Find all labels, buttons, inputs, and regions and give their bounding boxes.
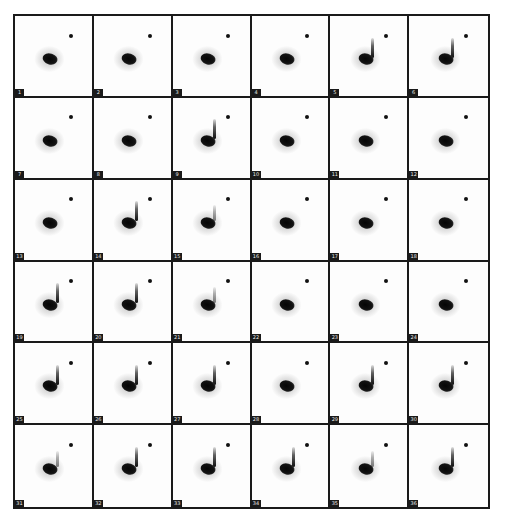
reference-dot — [305, 197, 309, 201]
image-panel: 4 — [252, 16, 331, 98]
image-panel: 15 — [173, 180, 252, 262]
reference-dot — [148, 361, 152, 365]
image-panel: 20 — [94, 262, 173, 344]
panel-number-label: 7 — [15, 171, 24, 178]
panel-number-label: 11 — [330, 171, 339, 178]
image-panel: 22 — [252, 262, 331, 344]
reference-dot — [226, 361, 230, 365]
reference-dot — [148, 443, 152, 447]
panel-number-label: 34 — [252, 500, 261, 507]
panel-number-label: 30 — [409, 416, 418, 423]
panel-number-label: 4 — [252, 89, 261, 96]
image-panel: 6 — [409, 16, 488, 98]
image-panel: 9 — [173, 98, 252, 180]
panel-number-label: 16 — [252, 253, 261, 260]
image-panel: 2 — [94, 16, 173, 98]
image-panel: 33 — [173, 425, 252, 507]
reference-dot — [464, 443, 468, 447]
image-panel: 16 — [252, 180, 331, 262]
image-panel: 3 — [173, 16, 252, 98]
blob-streak — [56, 451, 59, 467]
blob-streak — [451, 447, 454, 467]
reference-dot — [226, 279, 230, 283]
image-panel: 36 — [409, 425, 488, 507]
reference-dot — [464, 197, 468, 201]
panel-number-label: 31 — [15, 500, 24, 507]
panel-number-label: 5 — [330, 89, 339, 96]
reference-dot — [384, 443, 388, 447]
image-panel: 5 — [330, 16, 409, 98]
blob-streak — [292, 447, 295, 467]
reference-dot — [305, 279, 309, 283]
panel-number-label: 28 — [252, 416, 261, 423]
reference-dot — [69, 361, 73, 365]
blob-streak — [135, 201, 138, 221]
image-panel: 28 — [252, 343, 331, 425]
panel-number-label: 29 — [330, 416, 339, 423]
reference-dot — [69, 115, 73, 119]
image-panel: 26 — [94, 343, 173, 425]
panel-number-label: 23 — [330, 334, 339, 341]
panel-number-label: 8 — [94, 171, 103, 178]
panel-number-label: 1 — [15, 89, 24, 96]
blob-streak — [56, 283, 59, 303]
reference-dot — [148, 279, 152, 283]
reference-dot — [148, 34, 152, 38]
image-panel: 10 — [252, 98, 331, 180]
reference-dot — [384, 197, 388, 201]
reference-dot — [305, 115, 309, 119]
image-panel: 13 — [15, 180, 94, 262]
reference-dot — [148, 197, 152, 201]
image-panel: 18 — [409, 180, 488, 262]
reference-dot — [464, 361, 468, 365]
reference-dot — [464, 115, 468, 119]
reference-dot — [226, 115, 230, 119]
image-panel: 8 — [94, 98, 173, 180]
panel-number-label: 15 — [173, 253, 182, 260]
panel-number-label: 33 — [173, 500, 182, 507]
reference-dot — [384, 34, 388, 38]
reference-dot — [305, 34, 309, 38]
blob-streak — [213, 119, 216, 139]
panel-number-label: 24 — [409, 334, 418, 341]
panel-number-label: 13 — [15, 253, 24, 260]
image-panel: 35 — [330, 425, 409, 507]
panel-number-label: 2 — [94, 89, 103, 96]
reference-dot — [384, 361, 388, 365]
image-panel: 30 — [409, 343, 488, 425]
blob-streak — [371, 38, 374, 58]
image-panel: 11 — [330, 98, 409, 180]
panel-number-label: 36 — [409, 500, 418, 507]
reference-dot — [69, 34, 73, 38]
panel-number-label: 10 — [252, 171, 261, 178]
image-panel: 31 — [15, 425, 94, 507]
panel-number-label: 27 — [173, 416, 182, 423]
panel-number-label: 12 — [409, 171, 418, 178]
image-panel: 23 — [330, 262, 409, 344]
blob-streak — [213, 287, 216, 303]
panel-number-label: 19 — [15, 334, 24, 341]
image-panel: 19 — [15, 262, 94, 344]
reference-dot — [148, 115, 152, 119]
image-panel: 12 — [409, 98, 488, 180]
reference-dot — [226, 34, 230, 38]
reference-dot — [384, 279, 388, 283]
panel-number-label: 20 — [94, 334, 103, 341]
reference-dot — [69, 197, 73, 201]
image-panel: 27 — [173, 343, 252, 425]
image-panel-grid: 1234567891011121314151617181920212223242… — [13, 14, 490, 509]
panel-number-label: 14 — [94, 253, 103, 260]
image-panel: 32 — [94, 425, 173, 507]
panel-number-label: 22 — [252, 334, 261, 341]
panel-number-label: 6 — [409, 89, 418, 96]
reference-dot — [384, 115, 388, 119]
panel-number-label: 3 — [173, 89, 182, 96]
blob-streak — [213, 447, 216, 467]
panel-number-label: 17 — [330, 253, 339, 260]
image-panel: 14 — [94, 180, 173, 262]
image-panel: 25 — [15, 343, 94, 425]
panel-number-label: 35 — [330, 500, 339, 507]
panel-number-label: 18 — [409, 253, 418, 260]
blob-streak — [213, 205, 216, 221]
blob-streak — [135, 283, 138, 303]
